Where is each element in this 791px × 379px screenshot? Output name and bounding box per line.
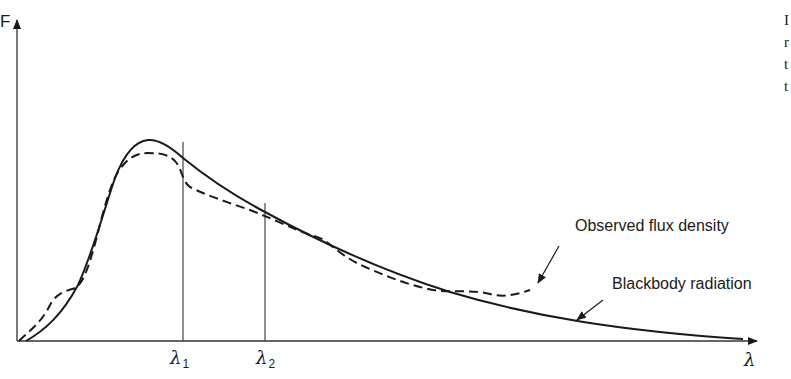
edge-text-fragment: t (784, 78, 791, 92)
lambda2-symbol: λ (256, 347, 267, 368)
x-axis-label: λ (744, 349, 755, 370)
edge-text-fragment: t (784, 56, 791, 70)
blackbody-label: Blackbody radiation (612, 275, 752, 293)
lambda2-label: λ2 (256, 347, 275, 368)
spectrum-figure: F λ λ1 λ2 Observed flux density Blackbod… (0, 0, 791, 379)
lambda1-label: λ1 (170, 347, 189, 368)
lambda2-subscript: 2 (268, 357, 275, 371)
blackbody-curve (26, 140, 743, 341)
lambda1-symbol: λ (170, 347, 181, 368)
lambda1-subscript: 1 (182, 357, 189, 371)
edge-text-fragment: r (784, 34, 791, 48)
edge-text-fragment: I (784, 12, 791, 26)
chart-canvas (0, 0, 791, 379)
y-axis-label: F (0, 12, 10, 32)
observed-callout-arrow (538, 246, 559, 283)
observed-flux-label: Observed flux density (575, 217, 729, 235)
blackbody-callout-arrow (577, 300, 603, 320)
observed-flux-curve (19, 153, 530, 341)
